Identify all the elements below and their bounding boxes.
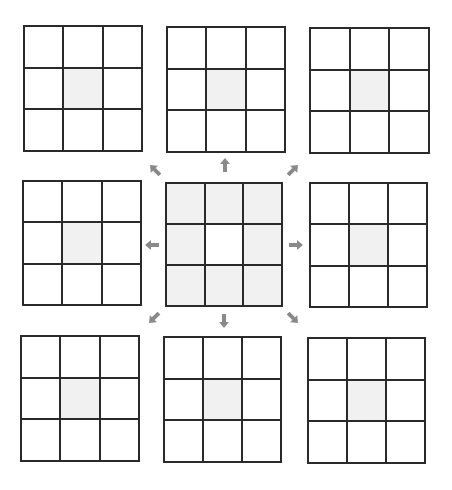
grid-cell [102,264,141,305]
grid-cell [167,110,206,152]
arrow-up-right-icon [282,159,305,182]
grid-cell [350,111,390,153]
grid-middle-left [22,180,142,306]
grid-cell [100,419,139,461]
grid-cell [243,183,282,224]
grid-cell [63,109,102,151]
grid-cell [203,337,242,379]
grid-cell [389,28,429,70]
grid-cell [102,181,141,222]
grid-cell [60,378,99,420]
grid-cell [310,266,349,307]
grid-cell [205,183,244,224]
arrow-left-icon [144,237,160,253]
grid-cell [203,379,242,421]
grid-cell [100,336,139,378]
grid-cell [388,224,427,265]
grid-cell [386,421,425,463]
grid-cell [166,265,205,306]
grid-cell [63,26,102,68]
grid-cell [203,420,242,462]
grid-cell [164,337,203,379]
grid-cell [347,380,386,422]
grid-cell [242,379,281,421]
grid-cell [310,28,350,70]
grid-cell [62,222,101,263]
grid-top-left [23,25,143,152]
grid-cell [389,70,429,112]
grid-cell [21,419,60,461]
grid-cell [242,337,281,379]
grid-bottom-right [307,337,426,464]
grid-cell [347,338,386,380]
grid-bottom-left [20,335,140,462]
grid-cell [386,380,425,422]
grid-cell [167,27,206,69]
grid-cell [206,110,245,152]
grid-cell [350,70,390,112]
grid-cell [103,26,142,68]
grid-cell [60,419,99,461]
grid-cell [102,222,141,263]
grid-cell [308,421,347,463]
grid-cell [167,69,206,111]
arrow-down-left-icon [143,307,166,330]
grid-cell [23,181,62,222]
grid-cell [308,338,347,380]
grid-cell [206,69,245,111]
grid-cell [62,181,101,222]
grid-cell [350,28,390,70]
arrow-up-left-icon [144,159,167,182]
grid-cell [389,111,429,153]
grid-cell [63,68,102,110]
arrow-right-icon [288,237,304,253]
grid-cell [24,68,63,110]
grid-cell [242,420,281,462]
grid-cell [310,224,349,265]
grid-cell [310,183,349,224]
arrow-down-right-icon [282,307,305,330]
grid-cell [24,109,63,151]
grid-cell [62,264,101,305]
grid-top-right [309,27,430,154]
grid-cell [347,421,386,463]
grid-cell [349,183,388,224]
grid-cell [21,378,60,420]
arrow-up-icon [217,157,233,173]
grid-middle-right [309,182,428,308]
grid-cell [103,109,142,151]
grid-cell [243,265,282,306]
grid-cell [205,224,244,265]
grid-cell [388,266,427,307]
grid-cell [308,380,347,422]
grid-top-center [166,26,286,153]
grid-cell [206,27,245,69]
grid-cell [23,222,62,263]
grid-cell [21,336,60,378]
grid-cell [386,338,425,380]
grid-cell [23,264,62,305]
grid-center [165,182,283,307]
grid-cell [164,420,203,462]
grid-cell [246,27,285,69]
grid-cell [310,70,350,112]
grid-cell [349,224,388,265]
grid-cell [246,69,285,111]
grid-cell [166,183,205,224]
grid-cell [166,224,205,265]
grid-cell [205,265,244,306]
grid-cell [103,68,142,110]
grid-cell [349,266,388,307]
arrow-down-icon [216,313,232,329]
grid-bottom-center [163,336,282,463]
grid-cell [243,224,282,265]
grid-cell [60,336,99,378]
grid-cell [310,111,350,153]
grid-cell [24,26,63,68]
grid-cell [388,183,427,224]
grid-cell [100,378,139,420]
grid-cell [164,379,203,421]
grid-cell [246,110,285,152]
